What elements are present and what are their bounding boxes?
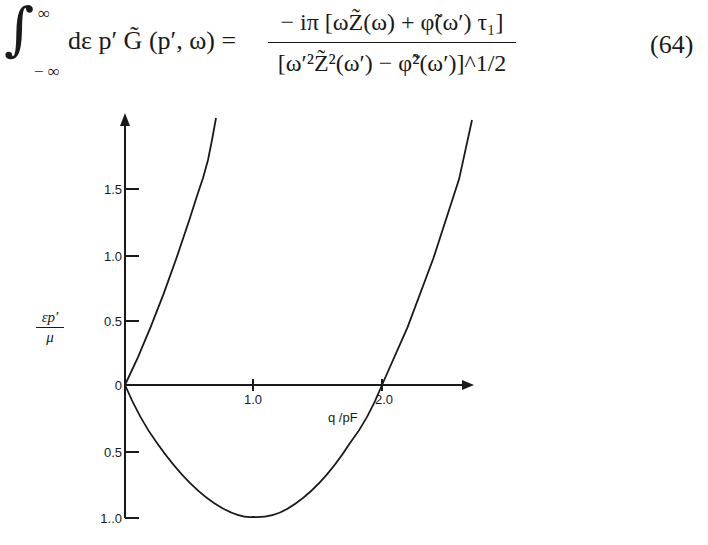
y-tick-label: 1.5	[104, 182, 122, 197]
y-axis-label: εp′ μ	[30, 309, 70, 346]
curve-upper-right	[382, 120, 472, 385]
y-axis-label-bar	[36, 327, 64, 328]
y-ticks	[125, 189, 139, 518]
y-tick-label: 0.5	[104, 314, 122, 329]
y-axis-arrow-icon	[120, 113, 130, 126]
y-tick-label: 1..0	[100, 511, 122, 526]
dispersion-plot: 1.5 1.0 0.5 0 0.5 1..0 1.0 2.0	[0, 0, 708, 545]
curve-upper-left	[125, 118, 216, 385]
y-axis-label-numerator: εp′	[30, 309, 70, 326]
x-axis-label: q /pF	[328, 410, 358, 425]
y-tick-label: 0	[115, 378, 122, 393]
x-axis-arrow-icon	[462, 380, 474, 390]
x-tick-label: 1.0	[244, 392, 262, 407]
y-axis-label-denominator: μ	[30, 329, 70, 346]
y-tick-label: 1.0	[104, 249, 122, 264]
y-tick-label: 0.5	[104, 445, 122, 460]
